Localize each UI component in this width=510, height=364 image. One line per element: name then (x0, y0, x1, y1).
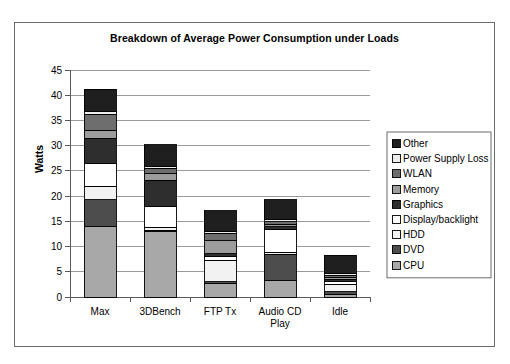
bar-segment (264, 200, 296, 220)
y-tick-label: 15 (51, 216, 63, 227)
bar-segment (84, 164, 116, 186)
bar-segment (144, 145, 176, 167)
legend-swatch (392, 185, 400, 193)
legend-swatch (392, 216, 400, 224)
bar-max[interactable] (84, 89, 116, 297)
bar-segment (84, 130, 116, 138)
bar-segment (144, 207, 176, 228)
x-tick-label: FTP Tx (204, 306, 236, 317)
legend-label[interactable]: DVD (403, 244, 424, 255)
y-tick-label: 25 (51, 165, 63, 176)
legend-swatch (392, 170, 400, 178)
legend-label[interactable]: CPU (403, 260, 424, 271)
bar-segment (324, 284, 356, 292)
bar-ftp-tx[interactable] (204, 211, 236, 297)
y-tick-label: 45 (51, 65, 63, 76)
bar-segment (84, 186, 116, 200)
legend-swatch (392, 246, 400, 254)
legend-swatch (392, 140, 400, 148)
bar-segment (204, 260, 236, 282)
x-tick-label: Idle (332, 306, 349, 317)
legend-label[interactable]: Graphics (403, 199, 443, 210)
bar-3dbench[interactable] (144, 145, 176, 297)
legend-label[interactable]: HDD (403, 229, 425, 240)
bar-segment (84, 114, 116, 130)
y-tick-label: 20 (51, 191, 63, 202)
legend-swatch (392, 261, 400, 269)
legend-label[interactable]: Power Supply Loss (403, 153, 489, 164)
x-tick-label: Audio CD (259, 306, 302, 317)
bar-segment (204, 241, 236, 254)
legend-label[interactable]: Display/backlight (403, 214, 478, 225)
y-tick-label: 10 (51, 241, 63, 252)
x-tick-label: Max (91, 306, 110, 317)
bar-segment (204, 211, 236, 232)
bar-segment (144, 168, 176, 174)
bar-segment (84, 138, 116, 164)
bar-segment (204, 233, 236, 240)
bar-segment (204, 254, 236, 257)
chart-plot: 051015202530354045Max3DBenchFTP TxAudio … (15, 23, 496, 348)
bar-segment (204, 284, 236, 297)
bar-segment (144, 174, 176, 181)
y-tick-label: 35 (51, 115, 63, 126)
bar-segment (264, 230, 296, 252)
bar-segment (264, 227, 296, 230)
bar-segment (84, 200, 116, 227)
x-tick-label: 3DBench (139, 306, 180, 317)
bar-segment (264, 281, 296, 297)
bar-segment (84, 227, 116, 297)
legend-label[interactable]: Memory (403, 184, 439, 195)
chart-frame: Breakdown of Average Power Consumption u… (14, 22, 495, 347)
y-tick-label: 5 (56, 266, 62, 277)
y-tick-label: 0 (56, 292, 62, 303)
legend-label[interactable]: Other (403, 138, 429, 149)
y-tick-label: 40 (51, 90, 63, 101)
bar-segment (144, 180, 176, 206)
x-tick-label: Play (270, 318, 289, 329)
bar-idle[interactable] (324, 255, 356, 297)
legend-swatch (392, 200, 400, 208)
legend-swatch (392, 155, 400, 163)
bar-audio-cd-play[interactable] (264, 200, 296, 297)
bar-segment (144, 227, 176, 230)
bar-segment (204, 257, 236, 261)
bar-segment (144, 232, 176, 297)
bar-segment (324, 255, 356, 273)
y-tick-label: 30 (51, 140, 63, 151)
bar-segment (84, 89, 116, 112)
bar-segment (264, 254, 296, 281)
legend-label[interactable]: WLAN (403, 168, 432, 179)
legend-swatch (392, 231, 400, 239)
